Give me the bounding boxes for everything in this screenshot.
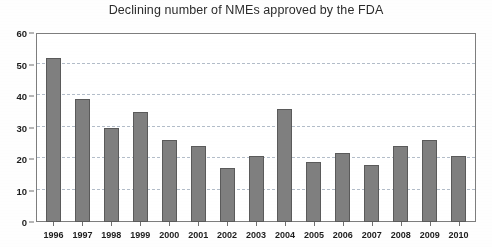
x-tick-mark-2005 bbox=[314, 222, 315, 226]
x-tick-mark-1999 bbox=[140, 222, 141, 226]
y-tick-mark-60 bbox=[29, 33, 34, 34]
gridline-10 bbox=[37, 189, 475, 190]
y-tick-mark-10 bbox=[29, 190, 34, 191]
y-tick-label-0: 0 bbox=[22, 217, 27, 228]
plot-area bbox=[36, 33, 476, 222]
x-slot: 1998 bbox=[97, 222, 126, 247]
x-slot: 2007 bbox=[357, 222, 386, 247]
x-slot: 2004 bbox=[271, 222, 300, 247]
y-tick-label-50: 50 bbox=[16, 59, 27, 70]
x-tick-mark-1996 bbox=[53, 222, 54, 226]
y-axis: 0102030405060 bbox=[0, 33, 34, 222]
x-tick-mark-2008 bbox=[401, 222, 402, 226]
x-tick-mark-1997 bbox=[82, 222, 83, 226]
x-slot: 2000 bbox=[155, 222, 184, 247]
x-slot: 2005 bbox=[299, 222, 328, 247]
x-tick-label-1996: 1996 bbox=[43, 230, 63, 240]
gridline-50 bbox=[37, 63, 475, 64]
gridline-20 bbox=[37, 157, 475, 158]
chart-title: Declining number of NMEs approved by the… bbox=[0, 3, 492, 17]
y-tick-mark-40 bbox=[29, 96, 34, 97]
x-tick-label-1998: 1998 bbox=[101, 230, 121, 240]
y-tick-label-10: 10 bbox=[16, 185, 27, 196]
x-tick-label-2001: 2001 bbox=[188, 230, 208, 240]
x-tick-label-1999: 1999 bbox=[130, 230, 150, 240]
x-slot: 1997 bbox=[68, 222, 97, 247]
y-tick-mark-50 bbox=[29, 64, 34, 65]
x-slot: 2001 bbox=[184, 222, 213, 247]
y-tick-mark-20 bbox=[29, 159, 34, 160]
x-slot: 1996 bbox=[39, 222, 68, 247]
x-tick-label-2004: 2004 bbox=[275, 230, 295, 240]
x-slot: 2010 bbox=[444, 222, 473, 247]
x-tick-label-2005: 2005 bbox=[304, 230, 324, 240]
x-tick-label-2003: 2003 bbox=[246, 230, 266, 240]
x-tick-mark-2000 bbox=[169, 222, 170, 226]
x-tick-label-2002: 2002 bbox=[217, 230, 237, 240]
x-slot: 1999 bbox=[126, 222, 155, 247]
x-slot: 2002 bbox=[213, 222, 242, 247]
y-tick-label-20: 20 bbox=[16, 154, 27, 165]
gridline-40 bbox=[37, 94, 475, 95]
x-tick-label-2010: 2010 bbox=[449, 230, 469, 240]
y-tick-label-30: 30 bbox=[16, 122, 27, 133]
x-tick-label-2000: 2000 bbox=[159, 230, 179, 240]
chart-figure: Declining number of NMEs approved by the… bbox=[0, 0, 492, 247]
x-slot: 2008 bbox=[386, 222, 415, 247]
y-tick-mark-30 bbox=[29, 127, 34, 128]
x-tick-mark-2009 bbox=[430, 222, 431, 226]
x-tick-label-2008: 2008 bbox=[391, 230, 411, 240]
x-tick-mark-2004 bbox=[285, 222, 286, 226]
y-tick-label-60: 60 bbox=[16, 28, 27, 39]
x-tick-mark-2003 bbox=[256, 222, 257, 226]
x-tick-mark-2007 bbox=[372, 222, 373, 226]
gridline-30 bbox=[37, 126, 475, 127]
x-axis: 1996199719981999200020012002200320042005… bbox=[36, 222, 476, 247]
x-tick-mark-2001 bbox=[198, 222, 199, 226]
x-slot: 2006 bbox=[328, 222, 357, 247]
x-tick-label-2009: 2009 bbox=[420, 230, 440, 240]
x-tick-mark-2010 bbox=[459, 222, 460, 226]
x-slot: 2003 bbox=[242, 222, 271, 247]
x-tick-mark-2006 bbox=[343, 222, 344, 226]
x-tick-mark-2002 bbox=[227, 222, 228, 226]
y-tick-mark-0 bbox=[29, 222, 34, 223]
x-tick-label-2006: 2006 bbox=[333, 230, 353, 240]
y-tick-label-40: 40 bbox=[16, 91, 27, 102]
x-tick-mark-1998 bbox=[111, 222, 112, 226]
x-tick-label-2007: 2007 bbox=[362, 230, 382, 240]
x-tick-label-1997: 1997 bbox=[72, 230, 92, 240]
x-slot: 2009 bbox=[415, 222, 444, 247]
